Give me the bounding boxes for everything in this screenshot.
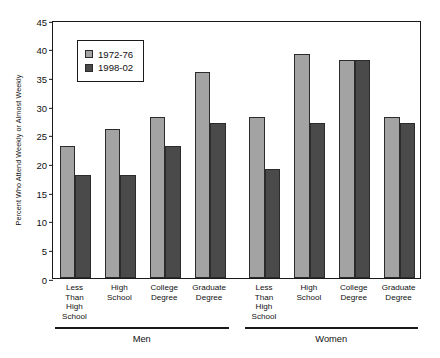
bar-197276-4 — [249, 117, 265, 278]
legend-swatch-icon — [85, 50, 93, 58]
y-tick-0: 0 — [1, 280, 53, 281]
y-tick-label: 35 — [36, 74, 47, 85]
y-tick-label: 20 — [36, 160, 47, 171]
group-label-0: Men — [133, 334, 151, 344]
bar-197276-1 — [105, 129, 121, 278]
y-tick-label: 15 — [36, 189, 47, 200]
bar-197276-5 — [294, 54, 310, 278]
y-tick-label: 30 — [36, 103, 47, 114]
y-tick-10: 10 — [1, 222, 53, 223]
legend-item-1: 1998-02 — [85, 62, 133, 73]
y-tick-mark — [49, 279, 53, 280]
category-label-1: High School — [107, 283, 132, 302]
group-label-1: Women — [315, 334, 347, 344]
y-axis-label: Percent Who Attend Weekly or Almost Week… — [14, 60, 23, 240]
y-tick-label: 25 — [36, 131, 47, 142]
legend-item-label: 1972-76 — [98, 49, 133, 60]
y-tick-40: 40 — [1, 50, 53, 51]
category-label-6: College Degree — [340, 283, 367, 302]
category-label-4: Less Than High School — [252, 283, 277, 321]
bar-197276-2 — [150, 117, 166, 278]
y-tick-5: 5 — [1, 251, 53, 252]
bar-197276-0 — [60, 146, 76, 278]
bar-197276-3 — [195, 72, 211, 278]
bar-199802-6 — [355, 60, 371, 278]
y-tick-label: 5 — [42, 246, 47, 257]
group-rule-1 — [245, 327, 419, 329]
bar-197276-6 — [339, 60, 355, 278]
y-tick-20: 20 — [1, 165, 53, 166]
bar-199802-3 — [210, 123, 226, 278]
y-tick-mark — [49, 193, 53, 194]
y-tick-15: 15 — [1, 194, 53, 195]
bar-199802-5 — [310, 123, 326, 278]
legend-item-0: 1972-76 — [85, 49, 133, 60]
cropped-header-band — [0, 0, 440, 8]
chart-figure: Percent Who Attend Weekly or Almost Week… — [0, 0, 440, 358]
category-label-0: Less Than High School — [62, 283, 87, 321]
legend-item-label: 1998-02 — [98, 62, 133, 73]
y-tick-mark — [49, 21, 53, 22]
y-tick-label: 45 — [36, 17, 47, 28]
bar-199802-1 — [120, 175, 136, 278]
y-tick-label: 40 — [36, 45, 47, 56]
y-tick-mark — [49, 79, 53, 80]
bar-199802-4 — [265, 169, 281, 278]
y-tick-mark — [49, 50, 53, 51]
bar-199802-0 — [75, 175, 91, 278]
y-tick-mark — [49, 251, 53, 252]
y-tick-45: 45 — [1, 22, 53, 23]
category-label-5: High School — [296, 283, 321, 302]
chart-legend: 1972-761998-02 — [77, 40, 144, 82]
bar-199802-2 — [165, 146, 181, 278]
y-tick-label: 10 — [36, 217, 47, 228]
category-label-2: College Degree — [150, 283, 177, 302]
y-tick-label: 0 — [42, 275, 47, 286]
bar-197276-7 — [384, 117, 400, 278]
y-tick-25: 25 — [1, 136, 53, 137]
category-label-7: Graduate Degree — [382, 283, 416, 302]
group-rule-0 — [55, 327, 229, 329]
y-tick-mark — [49, 222, 53, 223]
y-tick-mark — [49, 165, 53, 166]
y-tick-mark — [49, 136, 53, 137]
legend-swatch-icon — [85, 64, 93, 72]
y-tick-30: 30 — [1, 108, 53, 109]
y-tick-35: 35 — [1, 79, 53, 80]
category-label-3: Graduate Degree — [192, 283, 226, 302]
bar-199802-7 — [400, 123, 416, 278]
y-tick-mark — [49, 107, 53, 108]
